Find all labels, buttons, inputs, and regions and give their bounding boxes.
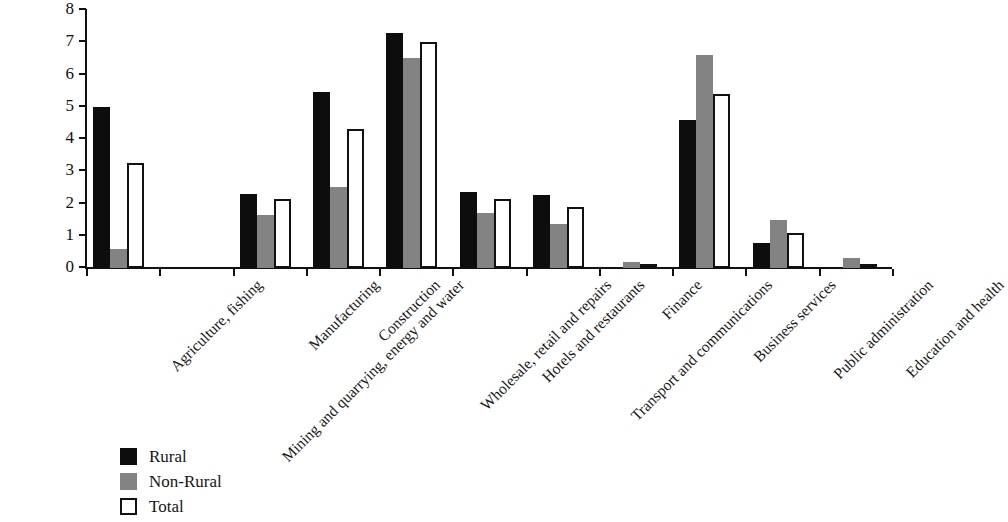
x-tick — [599, 269, 601, 276]
x-tick — [526, 269, 528, 276]
bar-group-bars — [679, 10, 730, 268]
x-axis-label: Agriculture, fishing — [167, 276, 266, 375]
x-tick — [819, 269, 821, 276]
bar-total — [274, 199, 291, 268]
y-tick: 4 — [79, 137, 86, 139]
y-tick-label: 6 — [66, 65, 75, 82]
x-tick — [452, 269, 454, 276]
y-tick-label: 0 — [66, 258, 75, 275]
x-axis-label: Mining and quarrying, energy and water — [278, 276, 468, 466]
x-tick — [379, 269, 381, 276]
x-tick — [233, 269, 235, 276]
bar-group — [166, 10, 217, 268]
bar-group-bars — [386, 10, 437, 268]
legend-item-non-rural: Non-Rural — [120, 471, 222, 492]
y-tick-label: 4 — [66, 129, 75, 146]
legend-label-non-rural: Non-Rural — [149, 473, 222, 490]
bar-total — [787, 233, 804, 268]
bar-group-bars — [460, 10, 511, 268]
y-tick-label: 7 — [66, 32, 75, 49]
legend-label-rural: Rural — [149, 448, 187, 465]
bar-group — [386, 10, 437, 268]
bar-group — [606, 10, 657, 268]
y-tick-label: 2 — [66, 194, 75, 211]
bar-non-rural — [623, 262, 640, 268]
y-tick: 8 — [79, 8, 86, 10]
y-tick-label: 1 — [66, 226, 75, 243]
bar-total — [127, 163, 144, 268]
legend-label-total: Total — [149, 498, 184, 515]
legend-swatch-non-rural — [120, 473, 137, 490]
x-tick — [86, 269, 88, 276]
bar-group-bars — [606, 10, 657, 268]
bar-group-bars — [753, 10, 804, 268]
y-tick: 1 — [79, 234, 86, 236]
y-tick: 7 — [79, 40, 86, 42]
bar-group — [753, 10, 804, 268]
bar-rural — [460, 192, 477, 268]
x-tick — [892, 269, 894, 276]
bar-rural — [313, 92, 330, 268]
y-tick-label: 3 — [66, 161, 75, 178]
bar-group — [679, 10, 730, 268]
bar-rural — [679, 120, 696, 268]
y-tick-label: 5 — [66, 97, 75, 114]
bar-non-rural — [330, 187, 347, 268]
y-tick: 6 — [79, 73, 86, 75]
bar-group-bars — [826, 10, 877, 268]
x-tick — [745, 269, 747, 276]
bar-group — [240, 10, 291, 268]
bar-group-bars — [93, 10, 144, 268]
bar-non-rural — [110, 249, 127, 268]
x-axis-label: Manufacturing — [305, 276, 383, 354]
bar-group-bars — [166, 10, 217, 268]
bar-group-bars — [533, 10, 584, 268]
bar-non-rural — [477, 213, 494, 268]
x-tick — [672, 269, 674, 276]
plot-area: 012345678 — [86, 10, 892, 268]
bar-total — [567, 207, 584, 268]
bar-rural — [240, 194, 257, 268]
bar-total — [494, 199, 511, 268]
bar-group — [533, 10, 584, 268]
bar-total — [860, 264, 877, 268]
legend-swatch-total — [120, 498, 137, 515]
y-tick: 2 — [79, 202, 86, 204]
x-tick — [159, 269, 161, 276]
bar-non-rural — [550, 224, 567, 268]
bar-non-rural — [696, 55, 713, 268]
bar-group — [460, 10, 511, 268]
y-tick: 3 — [79, 169, 86, 171]
bar-non-rural — [843, 258, 860, 268]
legend-item-total: Total — [120, 496, 222, 517]
y-tick: 5 — [79, 105, 86, 107]
bar-group-bars — [240, 10, 291, 268]
bar-group-bars — [313, 10, 364, 268]
x-tick — [306, 269, 308, 276]
bar-non-rural — [257, 215, 274, 268]
bar-total — [640, 264, 657, 268]
bar-rural — [753, 243, 770, 268]
legend: Rural Non-Rural Total — [120, 446, 222, 517]
bar-group — [93, 10, 144, 268]
bar-non-rural — [403, 58, 420, 268]
bar-group — [313, 10, 364, 268]
bar-total — [713, 94, 730, 268]
bar-total — [420, 42, 437, 268]
bar-rural — [386, 33, 403, 268]
legend-swatch-rural — [120, 448, 137, 465]
x-axis-label: Finance — [659, 276, 706, 323]
legend-item-rural: Rural — [120, 446, 222, 467]
bar-group — [826, 10, 877, 268]
bar-total — [347, 129, 364, 268]
bar-rural — [93, 107, 110, 268]
y-tick: 0 — [79, 266, 86, 268]
x-axis-label: Wholesale, retail and repairs — [476, 276, 614, 414]
bar-rural — [533, 195, 550, 268]
bar-non-rural — [770, 220, 787, 268]
y-tick-label: 8 — [66, 0, 75, 17]
